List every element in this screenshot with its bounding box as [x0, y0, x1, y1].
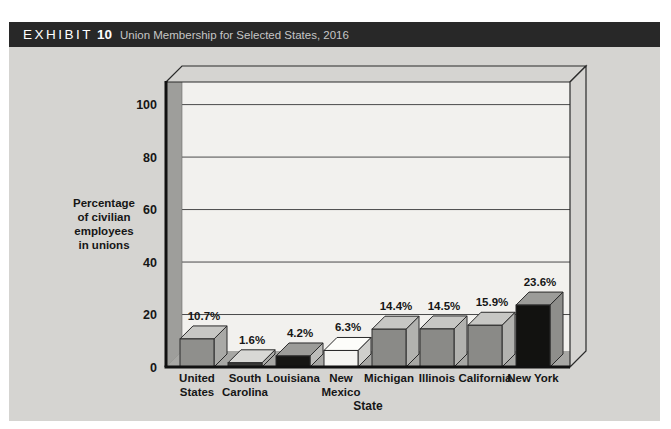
bar-value-label: 23.6% — [524, 276, 557, 288]
bar-illinois: 14.5% — [420, 300, 467, 367]
bar-front-face — [420, 329, 454, 367]
bar-united-states: 10.7% — [180, 310, 227, 367]
x-category-label: New — [329, 372, 353, 384]
page: { "header": { "exhibit_label": "EXHIBIT"… — [0, 0, 671, 429]
y-tick-label-20: 20 — [143, 308, 157, 322]
bar-front-face — [516, 305, 550, 367]
plot-back-wall — [182, 66, 570, 351]
bar-front-face — [468, 325, 502, 367]
bar-value-label: 14.4% — [380, 300, 413, 312]
bar-michigan: 14.4% — [372, 300, 419, 367]
x-category-label: Illinois — [419, 372, 455, 384]
x-category-label: Michigan — [364, 372, 414, 384]
bar-value-label: 6.3% — [335, 321, 361, 333]
y-tick-label-100: 100 — [136, 98, 157, 112]
x-category-label: South — [229, 372, 262, 384]
y-tick-label-60: 60 — [143, 203, 157, 217]
bar-front-face — [276, 356, 310, 367]
x-category-label: California — [458, 372, 512, 384]
x-category-label: New York — [507, 372, 559, 384]
x-axis-title: State — [353, 399, 383, 413]
x-category-label: Carolina — [222, 386, 269, 398]
plot-left-wall — [166, 66, 182, 367]
bar-value-label: 10.7% — [188, 310, 221, 322]
y-axis-title-line: Percentage — [73, 197, 135, 209]
bar-value-label: 1.6% — [239, 334, 265, 346]
y-tick-label-0: 0 — [150, 361, 157, 375]
y-tick-label-80: 80 — [143, 151, 157, 165]
x-category-label: United — [179, 372, 215, 384]
bar-front-face — [372, 329, 406, 367]
bar-front-face — [324, 350, 358, 367]
y-axis-title-line: in unions — [78, 239, 129, 251]
bar-value-label: 14.5% — [428, 300, 461, 312]
y-tick-label-40: 40 — [143, 256, 157, 270]
bar-front-face — [180, 339, 214, 367]
bar-value-label: 15.9% — [476, 296, 509, 308]
bar-california: 15.9% — [468, 296, 515, 367]
union-membership-chart: 10.7%1.6%4.2%6.3%14.4%14.5%15.9%23.6%020… — [0, 0, 671, 429]
bar-value-label: 4.2% — [287, 327, 313, 339]
plot-right-wall — [570, 66, 586, 367]
y-axis-title-line: of civilian — [77, 211, 130, 223]
plot-top-face — [166, 66, 586, 82]
y-axis-title-line: employees — [74, 225, 133, 237]
x-category-label: Mexico — [322, 386, 361, 398]
x-category-label: States — [180, 386, 215, 398]
x-category-label: Louisiana — [266, 372, 320, 384]
